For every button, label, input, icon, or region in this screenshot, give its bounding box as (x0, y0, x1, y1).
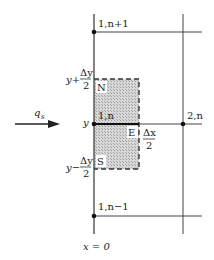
label-flux: q (34, 107, 40, 118)
label-y-center: y (82, 117, 89, 128)
label-y-upper-frac-den: 2 (83, 80, 89, 91)
label-face-north: N (97, 82, 106, 93)
finite-difference-grid-diagram: 1,n+1 1,n 2,n 1,n−1 N E S Δx 2 y+ Δy 2 y… (0, 0, 214, 260)
label-y-upper-frac-num: Δy (80, 67, 93, 78)
label-y-lower-frac-den: 2 (83, 168, 89, 179)
label-flux-sub: s (41, 113, 45, 121)
label-node-bottom: 1,n−1 (98, 201, 129, 212)
label-node-center: 1,n (98, 110, 115, 121)
node-top (92, 30, 97, 35)
label-face-south: S (97, 156, 104, 167)
label-face-east: E (128, 127, 135, 138)
label-y-lower: y− (65, 162, 80, 173)
label-y-lower-frac-num: Δy (80, 155, 93, 166)
label-node-top: 1,n+1 (98, 18, 129, 29)
label-east-den: 2 (146, 140, 152, 151)
node-center (92, 122, 97, 127)
label-boundary: x = 0 (83, 241, 110, 252)
node-right (181, 122, 186, 127)
flux-arrow-head-icon (48, 120, 60, 128)
label-y-upper: y+ (65, 74, 80, 85)
label-node-right: 2,n (187, 110, 204, 121)
label-east-num: Δx (143, 127, 156, 138)
node-bottom (92, 214, 97, 219)
